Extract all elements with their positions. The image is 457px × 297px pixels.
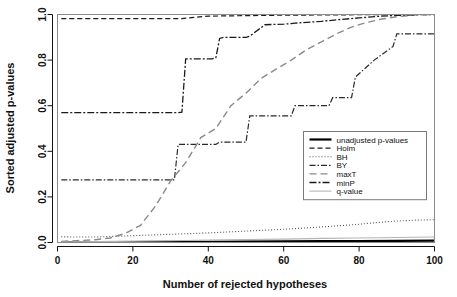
x-axis-title: Number of rejected hypotheses bbox=[163, 278, 327, 290]
x-tick-label: 60 bbox=[278, 255, 290, 266]
y-tick-label: 0.6 bbox=[37, 98, 48, 112]
y-tick-label: 0.2 bbox=[37, 190, 48, 204]
chart-figure: 0204060801000.00.20.40.60.81.0 Number of… bbox=[0, 0, 457, 297]
y-tick-label: 0.8 bbox=[37, 53, 48, 67]
y-tick-label: 0.4 bbox=[37, 144, 48, 158]
x-tick-label: 20 bbox=[127, 255, 139, 266]
chart-legend[interactable]: unadjusted p-valuesHolmBHBYmaxTminPq-val… bbox=[304, 132, 427, 200]
x-tick-label: 40 bbox=[203, 255, 215, 266]
x-tick-label: 80 bbox=[354, 255, 366, 266]
x-tick-label: 0 bbox=[55, 255, 61, 266]
legend-label-q-value: q-value bbox=[337, 187, 364, 196]
y-tick-label: 0.0 bbox=[37, 235, 48, 249]
y-tick-label: 1.0 bbox=[37, 7, 48, 21]
y-axis-title: Sorted adjusted p-values bbox=[4, 63, 16, 194]
x-tick-label: 100 bbox=[426, 255, 443, 266]
